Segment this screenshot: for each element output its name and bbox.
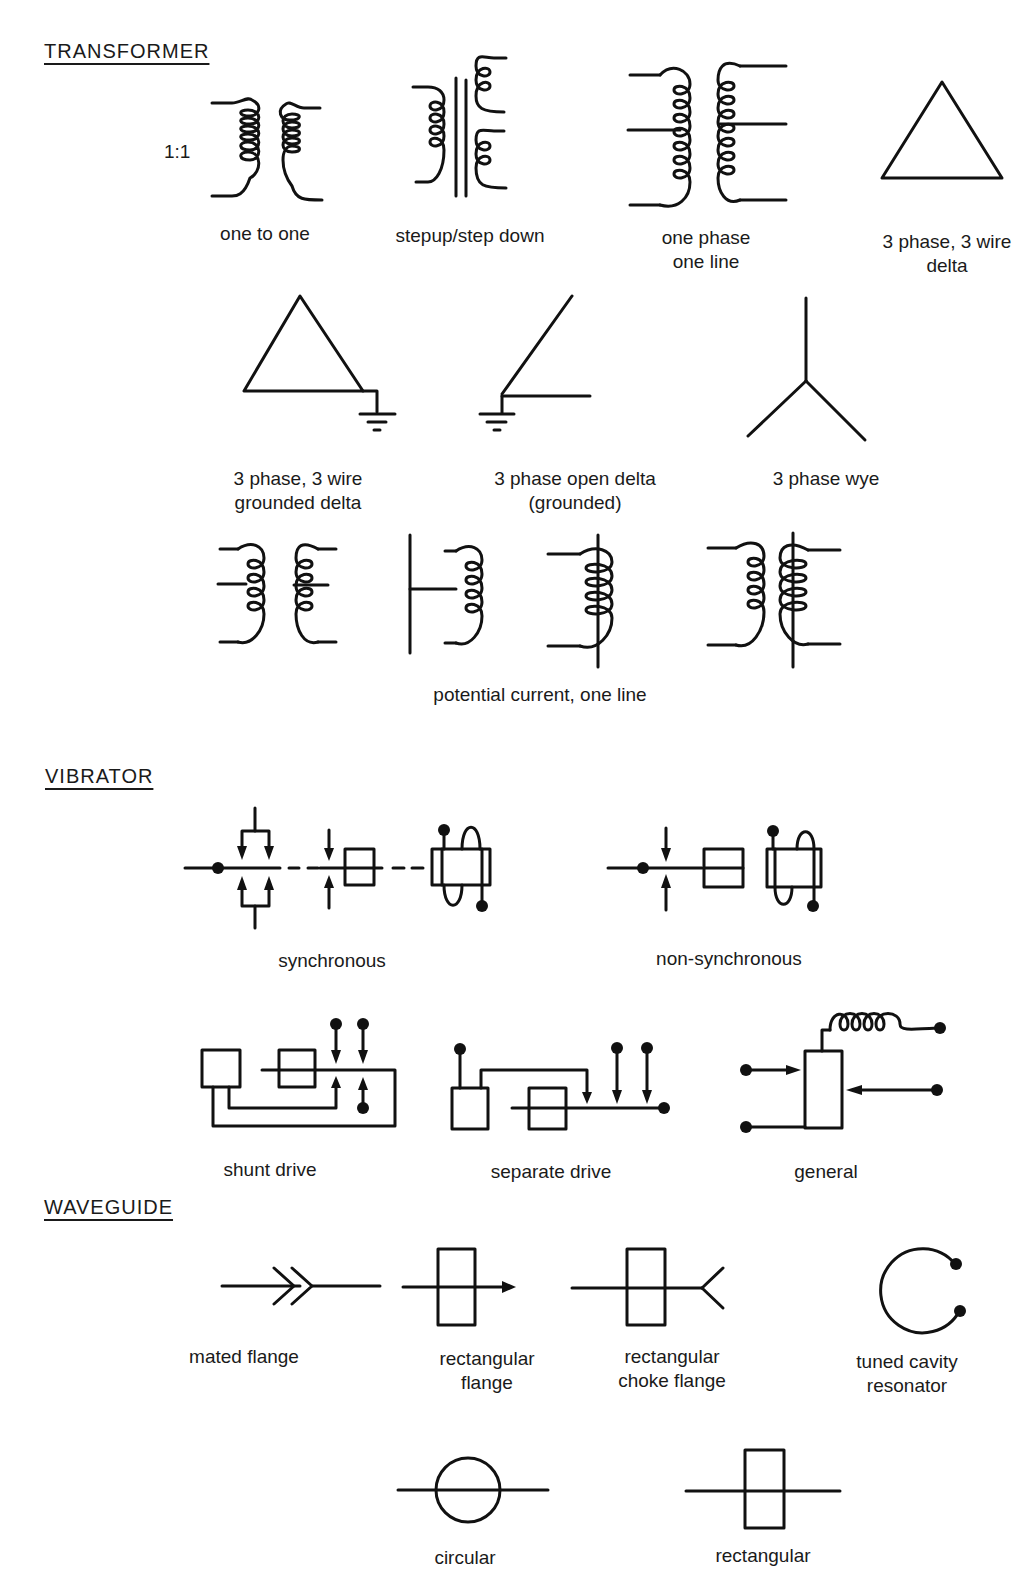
section-heading-vibrator: VIBRATOR bbox=[45, 765, 153, 788]
label-synchronous: synchronous bbox=[252, 949, 412, 973]
label-line: rectangular bbox=[414, 1347, 560, 1371]
label-mated-flange: mated flange bbox=[164, 1345, 324, 1369]
label-rectangular: rectangular bbox=[700, 1544, 826, 1568]
label-line: 3 phase, 3 wire bbox=[208, 467, 388, 491]
label-line: 3 phase open delta bbox=[470, 467, 680, 491]
label-stepup-step-down: stepup/step down bbox=[372, 224, 568, 248]
label-grounded-delta: 3 phase, 3 wire grounded delta bbox=[208, 467, 388, 515]
label-rectangular-flange: rectangular flange bbox=[414, 1347, 560, 1395]
waveguide-tuned-cavity-icon bbox=[881, 1249, 966, 1333]
label-general: general bbox=[776, 1160, 876, 1184]
label-line: 3 phase, 3 wire bbox=[862, 230, 1032, 254]
label-line: one phase bbox=[628, 226, 784, 250]
label-potential-current: potential current, one line bbox=[390, 683, 690, 707]
label-line: (grounded) bbox=[470, 491, 680, 515]
label-line: delta bbox=[862, 254, 1032, 278]
waveguide-choke-flange-icon bbox=[572, 1249, 723, 1325]
transformer-one-to-one-icon bbox=[212, 99, 322, 200]
label-one-to-one: one to one bbox=[200, 222, 330, 246]
transformer-open-delta-icon bbox=[480, 296, 590, 430]
transformer-wye-icon bbox=[748, 298, 865, 440]
label-shunt-drive: shunt drive bbox=[200, 1158, 340, 1182]
transformer-potential-current-icon bbox=[218, 533, 840, 667]
label-open-delta: 3 phase open delta (grounded) bbox=[470, 467, 680, 515]
waveguide-mated-flange-icon bbox=[222, 1268, 380, 1304]
label-delta: 3 phase, 3 wire delta bbox=[862, 230, 1032, 278]
label-line: tuned cavity bbox=[832, 1350, 982, 1374]
waveguide-rectangular-icon bbox=[686, 1450, 840, 1528]
waveguide-circular-icon bbox=[398, 1458, 548, 1522]
label-one-phase-one-line: one phase one line bbox=[628, 226, 784, 274]
label-line: one line bbox=[628, 250, 784, 274]
vibrator-separate-drive-icon bbox=[452, 1042, 670, 1129]
label-line: choke flange bbox=[594, 1369, 750, 1393]
transformer-one-phase-icon bbox=[628, 63, 786, 206]
label-line: flange bbox=[414, 1371, 560, 1395]
label-choke-flange: rectangular choke flange bbox=[594, 1345, 750, 1393]
waveguide-rectangular-flange-icon bbox=[403, 1249, 516, 1325]
label-circular: circular bbox=[405, 1546, 525, 1570]
label-wye: 3 phase wye bbox=[746, 467, 906, 491]
label-line: rectangular bbox=[594, 1345, 750, 1369]
ratio-label: 1:1 bbox=[164, 141, 190, 163]
label-separate-drive: separate drive bbox=[466, 1160, 636, 1184]
vibrator-synchronous-icon bbox=[185, 808, 490, 928]
transformer-delta-icon bbox=[882, 82, 1002, 178]
label-line: resonator bbox=[832, 1374, 982, 1398]
transformer-stepup-icon bbox=[413, 57, 506, 196]
vibrator-non-synchronous-icon bbox=[608, 825, 821, 912]
label-non-synchronous: non-synchronous bbox=[624, 947, 834, 971]
label-tuned-cavity: tuned cavity resonator bbox=[832, 1350, 982, 1398]
label-line: grounded delta bbox=[208, 491, 388, 515]
transformer-grounded-delta-icon bbox=[244, 296, 395, 430]
vibrator-general-icon bbox=[740, 1014, 946, 1134]
vibrator-shunt-drive-icon bbox=[202, 1018, 395, 1126]
section-heading-transformer: TRANSFORMER bbox=[44, 40, 209, 63]
section-heading-waveguide: WAVEGUIDE bbox=[44, 1196, 173, 1219]
